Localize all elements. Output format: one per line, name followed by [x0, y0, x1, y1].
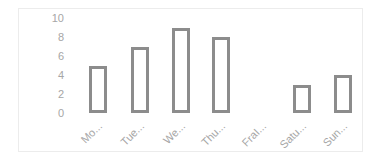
bar — [131, 47, 149, 114]
bar — [212, 37, 230, 113]
chart-frame — [18, 8, 363, 152]
y-tick-0: 0 — [40, 107, 64, 119]
y-tick-4: 4 — [40, 69, 64, 81]
y-tick-2: 2 — [40, 88, 64, 100]
y-tick-10: 10 — [40, 12, 64, 24]
bar — [334, 75, 352, 113]
bar — [172, 28, 190, 114]
bar — [293, 85, 311, 114]
y-tick-6: 6 — [40, 50, 64, 62]
y-tick-8: 8 — [40, 31, 64, 43]
bar — [89, 66, 107, 114]
